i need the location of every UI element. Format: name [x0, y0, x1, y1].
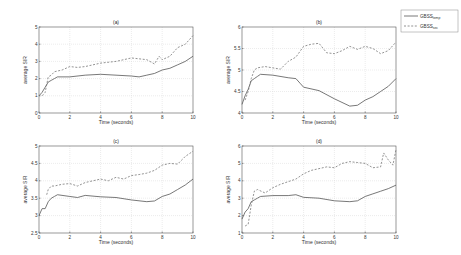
y-tick-label: 6: [238, 144, 241, 149]
panel-c: 02468102.533.544.55(c)Time (seconds)aver…: [22, 139, 196, 245]
x-tick-label: 2: [272, 115, 275, 120]
series-line-gbss-sec: [47, 151, 193, 195]
series-line-gbss-temp: [242, 185, 396, 219]
y-tick-label: 5: [238, 68, 241, 73]
y-tick-label: 2: [238, 213, 241, 218]
x-tick-label: 10: [190, 235, 196, 240]
panel-d: 0246810123456(d)Time (seconds)average SI…: [225, 139, 399, 245]
x-axis-label: Time (seconds): [99, 119, 134, 125]
x-axis-label: Time (seconds): [302, 239, 337, 245]
x-tick-label: 2: [69, 235, 72, 240]
panel-title-b: (b): [316, 20, 322, 25]
y-tick-label: 5: [35, 144, 38, 149]
y-tick-label: 4: [35, 42, 38, 47]
y-tick-label: 3: [35, 213, 38, 218]
x-axis-label: Time (seconds): [302, 119, 337, 125]
y-tick-label: 1: [238, 231, 241, 236]
x-tick-label: 0: [38, 235, 41, 240]
y-tick-label: 1: [35, 93, 38, 98]
y-axis-label: average SIR: [225, 56, 231, 84]
panel-a: 0246810012345(a)Time (seconds)average SI…: [22, 20, 196, 125]
x-tick-label: 8: [364, 115, 367, 120]
plot-area-c: [39, 146, 193, 233]
y-tick-label: 4: [238, 111, 241, 116]
x-tick-label: 8: [364, 235, 367, 240]
panel-title-c: (c): [113, 139, 119, 144]
x-tick-label: 0: [241, 235, 244, 240]
y-tick-label: 2.5: [31, 231, 38, 236]
x-tick-label: 0: [241, 115, 244, 120]
y-tick-label: 4.5: [234, 89, 241, 94]
series-line-gbss-temp: [242, 74, 396, 106]
series-line-gbss-sec: [245, 149, 396, 226]
x-tick-label: 10: [393, 115, 399, 120]
panel-title-d: (d): [316, 139, 322, 144]
y-tick-label: 4.5: [31, 161, 38, 166]
y-axis-label: average SIR: [22, 56, 28, 84]
panel-title-a: (a): [113, 20, 119, 25]
y-tick-label: 5: [238, 161, 241, 166]
y-tick-label: 4: [238, 178, 241, 183]
y-tick-label: 3: [238, 196, 241, 201]
x-tick-label: 0: [38, 115, 41, 120]
y-tick-label: 3: [35, 59, 38, 64]
plot-area-d: [242, 146, 396, 233]
y-axis-label: average SIR: [22, 175, 28, 203]
x-tick-label: 10: [393, 235, 399, 240]
figure: 0246810012345(a)Time (seconds)average SI…: [0, 0, 461, 255]
series-line-gbss-temp: [39, 179, 193, 216]
series-line-gbss-temp: [39, 56, 193, 96]
panel-b: 024681044.555.56(b)Time (seconds)average…: [225, 20, 399, 125]
y-tick-label: 3.5: [31, 196, 38, 201]
x-tick-label: 8: [161, 235, 164, 240]
x-axis-label: Time (seconds): [99, 239, 134, 245]
y-tick-label: 4: [35, 178, 38, 183]
x-tick-label: 2: [69, 115, 72, 120]
y-tick-label: 0: [35, 111, 38, 116]
x-tick-label: 10: [190, 115, 196, 120]
x-tick-label: 2: [272, 235, 275, 240]
series-line-gbss-sec: [42, 36, 193, 96]
x-tick-label: 8: [161, 115, 164, 120]
legend: GBSStemp GBSSsec: [401, 10, 458, 32]
y-tick-label: 5.5: [234, 46, 241, 51]
y-axis-label: average SIR: [225, 175, 231, 203]
y-tick-label: 2: [35, 76, 38, 81]
y-tick-label: 5: [35, 25, 38, 30]
y-tick-label: 6: [238, 25, 241, 30]
